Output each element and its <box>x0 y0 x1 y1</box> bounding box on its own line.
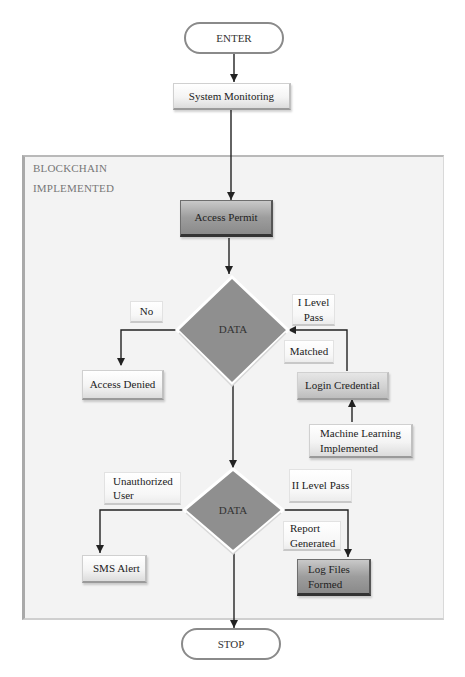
edge-label-unauthorized: Unauthorized User <box>104 472 181 505</box>
edge-label-matched: Matched <box>284 340 334 364</box>
decision-1-label: DATA <box>207 323 259 335</box>
edge-label-level1-line2: Pass <box>304 310 324 324</box>
edge-label-level2-text: II Level Pass <box>292 478 349 492</box>
login-credential-node: Login Credential <box>297 372 389 400</box>
edge-label-no: No <box>130 301 163 323</box>
access-denied-node: Access Denied <box>82 370 164 400</box>
edge-label-level2: II Level Pass <box>289 469 352 503</box>
access-denied-label: Access Denied <box>90 377 156 391</box>
edge-label-report: Report Generated <box>283 521 341 551</box>
access-permit-label: Access Permit <box>194 210 257 224</box>
edge-label-unauth-line1: Unauthorized <box>113 474 173 488</box>
ml-implemented-node: Machine Learning Implemented <box>309 424 413 458</box>
ml-label-line2: Implemented <box>320 441 378 455</box>
edge-label-report-line1: Report <box>290 521 320 535</box>
edge-label-level1: I Level Pass <box>292 294 335 326</box>
connector-layer <box>0 0 465 677</box>
decision-2-label: DATA <box>207 504 259 516</box>
edge-label-no-text: No <box>140 304 153 318</box>
log-files-line2: Formed <box>308 577 342 591</box>
sms-alert-label: SMS Alert <box>93 561 140 575</box>
arrow-data1-to-denied <box>121 330 178 365</box>
edge-label-matched-text: Matched <box>290 344 328 358</box>
edge-label-report-line2: Generated <box>290 536 335 550</box>
edge-label-unauth-line2: User <box>113 488 134 502</box>
ml-label-line1: Machine Learning <box>320 426 401 440</box>
access-permit-node: Access Permit <box>180 200 273 237</box>
edge-label-level1-line1: I Level <box>298 295 329 309</box>
sms-alert-node: SMS Alert <box>82 555 147 583</box>
stop-terminal: STOP <box>181 628 281 660</box>
arrow-data2-to-sms <box>100 510 185 553</box>
login-credential-label: Login Credential <box>305 378 380 392</box>
log-files-line1: Log Files <box>308 562 350 576</box>
log-files-node: Log Files Formed <box>297 559 371 596</box>
stop-label: STOP <box>218 638 245 650</box>
